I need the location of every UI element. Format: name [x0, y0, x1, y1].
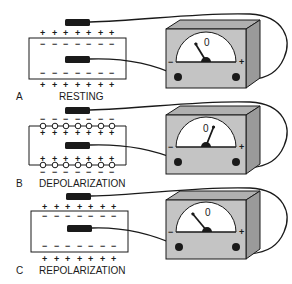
svg-text:−: − [86, 167, 91, 177]
svg-text:+: + [109, 28, 114, 38]
svg-text:−: − [98, 114, 103, 124]
svg-text:+: + [98, 128, 103, 138]
svg-text:+: + [86, 128, 91, 138]
svg-text:−: − [52, 114, 57, 124]
svg-text:+: + [75, 28, 80, 38]
svg-text:−: − [86, 39, 91, 49]
svg-text:−: − [77, 241, 82, 251]
svg-text:−: − [54, 241, 59, 251]
svg-text:−: − [98, 68, 103, 78]
svg-text:+: + [109, 80, 114, 90]
svg-text:−: − [86, 68, 91, 78]
svg-text:−: − [86, 114, 91, 124]
panel-b: − − − − − − − + + + + + + + + + + [16, 102, 287, 189]
outside-charges-top: − − − − − − − [40, 114, 114, 124]
panel-caption: DEPOLARIZATION [39, 178, 126, 189]
svg-text:−: − [42, 241, 47, 251]
svg-text:−: − [63, 114, 68, 124]
svg-text:−: − [75, 114, 80, 124]
inner-electrode [67, 225, 92, 232]
svg-text:−: − [77, 211, 82, 221]
negative-terminal [174, 73, 182, 81]
svg-text:−: − [65, 211, 70, 221]
svg-text:+: + [75, 80, 80, 90]
svg-text:+: + [65, 254, 70, 264]
svg-text:+: + [98, 80, 103, 90]
inner-electrode [65, 56, 90, 63]
svg-text:−: − [98, 167, 103, 177]
svg-text:−: − [168, 142, 173, 152]
panel-c: + + + + + + + − − − − − − − − − − − − − … [16, 188, 287, 276]
inside-charges-bottom: − − − − − − − [40, 68, 114, 78]
outer-electrode [65, 19, 90, 26]
svg-text:−: − [75, 68, 80, 78]
svg-text:−: − [109, 167, 114, 177]
svg-text:+: + [88, 254, 93, 264]
outer-electrode [65, 107, 90, 114]
inside-charges-top: − − − − − − − [42, 211, 116, 221]
outside-charges-bottom: − − − − − − − [40, 167, 114, 177]
svg-text:−: − [98, 39, 103, 49]
inside-charges-top: − − − − − − − [40, 39, 114, 49]
panel-caption: RESTING [59, 91, 104, 102]
minus-label: − [168, 57, 173, 67]
svg-text:+: + [100, 254, 105, 264]
membrane-potential-diagram: + + + + + + + − − − − − − − − − − − − − [0, 0, 292, 284]
svg-text:−: − [75, 39, 80, 49]
svg-text:−: − [52, 68, 57, 78]
svg-text:+: + [77, 254, 82, 264]
svg-text:−: − [111, 211, 116, 221]
svg-text:−: − [109, 114, 114, 124]
svg-text:+: + [40, 128, 45, 138]
svg-text:+: + [239, 227, 244, 237]
inside-charges-bottom: − − − − − − − [42, 241, 116, 251]
svg-text:−: − [54, 211, 59, 221]
dial-zero-label: 0 [204, 37, 210, 48]
svg-text:+: + [86, 80, 91, 90]
positive-terminal [232, 73, 240, 81]
svg-text:−: − [40, 167, 45, 177]
svg-text:+: + [63, 80, 68, 90]
svg-text:−: − [42, 211, 47, 221]
svg-text:−: − [63, 39, 68, 49]
panel-letter: B [16, 178, 23, 189]
voltmeter: 0 − + [166, 191, 260, 259]
svg-text:+: + [63, 128, 68, 138]
panel-caption: REPOLARIZATION [39, 265, 126, 276]
svg-text:+: + [40, 80, 45, 90]
panel-letter: C [16, 265, 23, 276]
svg-text:+: + [86, 28, 91, 38]
svg-text:+: + [75, 128, 80, 138]
svg-text:−: − [40, 39, 45, 49]
svg-text:+: + [63, 28, 68, 38]
svg-text:−: − [75, 167, 80, 177]
svg-text:−: − [63, 167, 68, 177]
svg-text:−: − [109, 68, 114, 78]
svg-text:+: + [239, 142, 244, 152]
svg-text:−: − [40, 114, 45, 124]
outside-charges-bottom: + + + + + + + [40, 80, 114, 90]
svg-text:−: − [168, 227, 173, 237]
plus-label: + [239, 57, 244, 67]
svg-text:+: + [52, 28, 57, 38]
svg-text:−: − [111, 241, 116, 251]
svg-text:+: + [52, 128, 57, 138]
svg-text:−: − [52, 167, 57, 177]
meter-side [246, 20, 260, 88]
inner-electrode [65, 142, 90, 149]
svg-text:−: − [88, 211, 93, 221]
outside-charges-bottom: + + + + + + + [42, 254, 116, 264]
svg-text:+: + [98, 28, 103, 38]
panel-letter: A [16, 91, 23, 102]
dial-zero-label: 0 [205, 207, 211, 218]
svg-text:−: − [52, 39, 57, 49]
svg-text:−: − [100, 241, 105, 251]
meter-top [166, 20, 260, 29]
svg-text:−: − [65, 241, 70, 251]
svg-text:−: − [109, 39, 114, 49]
panel-a: + + + + + + + − − − − − − − − − − − − − [16, 14, 287, 102]
svg-text:+: + [52, 80, 57, 90]
voltmeter: 0 − + [166, 20, 260, 88]
svg-text:+: + [54, 254, 59, 264]
inside-charges-top: + + + + + + + [40, 128, 114, 138]
